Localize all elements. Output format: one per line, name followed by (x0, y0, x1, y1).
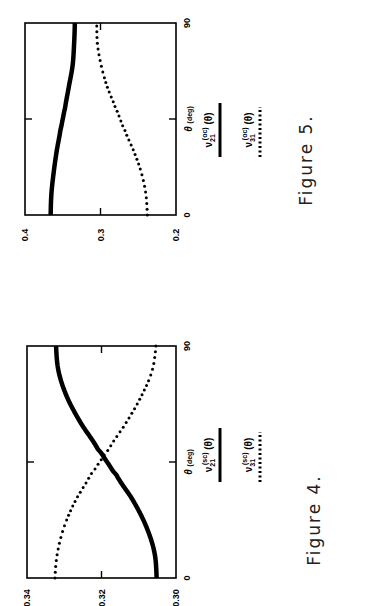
series-point (53, 577, 56, 580)
series-point (100, 458, 103, 461)
series-point (54, 565, 57, 568)
series-point (96, 42, 99, 45)
series-point (145, 384, 148, 387)
series-point (154, 350, 157, 353)
series-point (144, 190, 147, 193)
series-line-21 (56, 346, 157, 578)
series-point (57, 548, 60, 551)
series-point (114, 105, 117, 108)
series-point (132, 148, 135, 151)
series-point (153, 356, 156, 359)
series-point (112, 440, 115, 443)
series-point (151, 368, 154, 371)
series-point (130, 412, 133, 415)
series-point (97, 47, 100, 50)
series-point (82, 486, 85, 489)
value-tick-label: 0.3 (96, 229, 106, 242)
series-point (149, 374, 152, 377)
series-point (147, 379, 150, 382)
legend-label: ν31(sc) (θ) (241, 438, 256, 473)
theta-tick-label: 90 (182, 341, 192, 351)
series-point (146, 208, 149, 211)
series-point (55, 559, 58, 562)
value-tick-label: 0.4 (20, 229, 30, 242)
theta-tick-label: 0 (182, 575, 192, 580)
series-point (59, 536, 62, 539)
series-point (128, 416, 131, 419)
series-point (109, 444, 112, 447)
series-point (145, 202, 148, 205)
series-point (145, 196, 148, 199)
legend-label: ν31(oc) (θ) (241, 112, 256, 147)
series-point (134, 153, 137, 156)
series-point (116, 110, 119, 113)
chart-figure-4: 0.300.320.34090θ (deg)ν21(sc) (θ)ν31(sc)… (22, 341, 324, 606)
series-point (141, 393, 144, 396)
legend-label: ν21(oc) (θ) (201, 112, 216, 147)
theta-tick-label: 0 (182, 212, 192, 217)
series-point (84, 481, 87, 484)
series-point (54, 571, 57, 574)
figure-caption: Figure 4. (304, 474, 324, 566)
series-point (152, 362, 155, 365)
series-point (79, 491, 82, 494)
figure-caption: Figure 5. (296, 114, 316, 206)
series-point (106, 86, 109, 89)
series-point (69, 509, 72, 512)
series-point (119, 119, 122, 122)
series-point (93, 467, 96, 470)
series-point (121, 124, 124, 127)
series-point (130, 143, 133, 146)
series-point (103, 454, 106, 457)
series-point (137, 163, 140, 166)
series-point (123, 129, 126, 132)
series-point (95, 24, 98, 27)
legend-label: ν21(sc) (θ) (201, 438, 216, 473)
series-point (76, 495, 79, 498)
series-line-21 (51, 23, 75, 215)
series-point (97, 463, 100, 466)
series-point (119, 430, 122, 433)
series-point (101, 70, 104, 73)
series-point (74, 500, 77, 503)
series-point (71, 505, 74, 508)
series-point (108, 91, 111, 94)
series-point (127, 139, 130, 142)
series-dots-31 (95, 24, 149, 216)
series-point (87, 477, 90, 480)
chart-figure-5: 0.20.30.4090θ (deg)ν21(oc) (θ)ν31(oc) (θ… (20, 18, 316, 241)
theta-axis-label: θ (deg) (183, 106, 194, 131)
series-point (90, 472, 93, 475)
legend-entry-31: ν31(sc) (θ) (241, 432, 260, 482)
value-tick-label: 0.30 (171, 589, 181, 606)
series-point (142, 179, 145, 182)
series-point (100, 65, 103, 68)
series-point (139, 167, 142, 170)
series-point (133, 407, 136, 410)
series-point (106, 449, 109, 452)
series-point (110, 95, 113, 98)
series-point (61, 530, 64, 533)
theta-tick-label: 90 (182, 18, 192, 28)
series-point (56, 553, 59, 556)
series-point (63, 524, 66, 527)
series-point (154, 345, 157, 348)
series-point (146, 214, 149, 217)
series-point (143, 185, 146, 188)
theta-axis-label: θ (deg) (183, 449, 194, 474)
plot-frame (25, 23, 176, 215)
series-point (115, 435, 118, 438)
series-point (143, 389, 146, 392)
series-point (138, 398, 141, 401)
series-point (95, 30, 98, 33)
value-tick-label: 0.2 (171, 229, 181, 242)
series-point (104, 81, 107, 84)
series-point (118, 115, 121, 118)
series-point (95, 36, 98, 39)
series-point (125, 421, 128, 424)
legend-entry-21: ν21(sc) (θ) (201, 428, 220, 482)
series-point (58, 542, 61, 545)
series-point (125, 134, 128, 137)
series-point (67, 514, 70, 517)
series-point (65, 519, 68, 522)
